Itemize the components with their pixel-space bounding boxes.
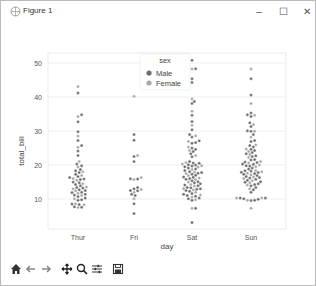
svg-text:30: 30 xyxy=(34,128,42,135)
maximize-button[interactable]: ☐ xyxy=(270,3,296,21)
y-tick-labels: 1020304050 xyxy=(34,60,42,203)
close-button[interactable]: ✕ xyxy=(294,3,316,21)
save-button[interactable] xyxy=(111,262,125,276)
forward-button[interactable] xyxy=(39,262,53,276)
x-axis-label: day xyxy=(161,242,174,251)
x-tick-labels: ThurFriSatSun xyxy=(71,234,258,241)
svg-text:Fri: Fri xyxy=(130,234,139,241)
matplotlib-logo-icon xyxy=(10,6,21,17)
arrow-right-icon xyxy=(40,263,52,275)
svg-text:Sun: Sun xyxy=(245,234,258,241)
minimize-button[interactable]: – xyxy=(246,3,272,21)
legend-female-marker xyxy=(146,80,151,85)
legend-title: sex xyxy=(159,56,171,65)
configure-subplots-button[interactable] xyxy=(90,262,104,276)
svg-text:50: 50 xyxy=(34,60,42,67)
arrow-left-icon xyxy=(25,263,37,275)
svg-text:40: 40 xyxy=(34,94,42,101)
pan-button[interactable] xyxy=(60,262,74,276)
home-icon xyxy=(10,263,22,275)
svg-text:Thur: Thur xyxy=(71,234,86,241)
back-button[interactable] xyxy=(24,262,38,276)
magnifier-icon xyxy=(76,263,88,275)
home-button[interactable] xyxy=(9,262,23,276)
legend-male-label: Male xyxy=(156,69,172,78)
svg-text:20: 20 xyxy=(34,162,42,169)
svg-text:Sat: Sat xyxy=(187,234,198,241)
navigation-toolbar xyxy=(9,260,126,278)
figure-window: Figure 1 – ☐ ✕ 1020304050 ThurFriSatSun … xyxy=(0,0,316,286)
legend: sex Male Female xyxy=(140,54,190,90)
zoom-button[interactable] xyxy=(75,262,89,276)
svg-text:10: 10 xyxy=(34,196,42,203)
legend-female-label: Female xyxy=(156,79,181,88)
swarm-plot[interactable]: 1020304050 ThurFriSatSun total_bill day … xyxy=(1,23,315,259)
window-title: Figure 1 xyxy=(23,6,52,15)
title-bar: Figure 1 – ☐ ✕ xyxy=(1,1,315,23)
y-axis-label: total_bill xyxy=(17,136,26,166)
floppy-disk-icon xyxy=(112,263,124,275)
move-icon xyxy=(61,263,73,275)
legend-male-marker xyxy=(146,70,151,75)
sliders-icon xyxy=(91,263,103,275)
